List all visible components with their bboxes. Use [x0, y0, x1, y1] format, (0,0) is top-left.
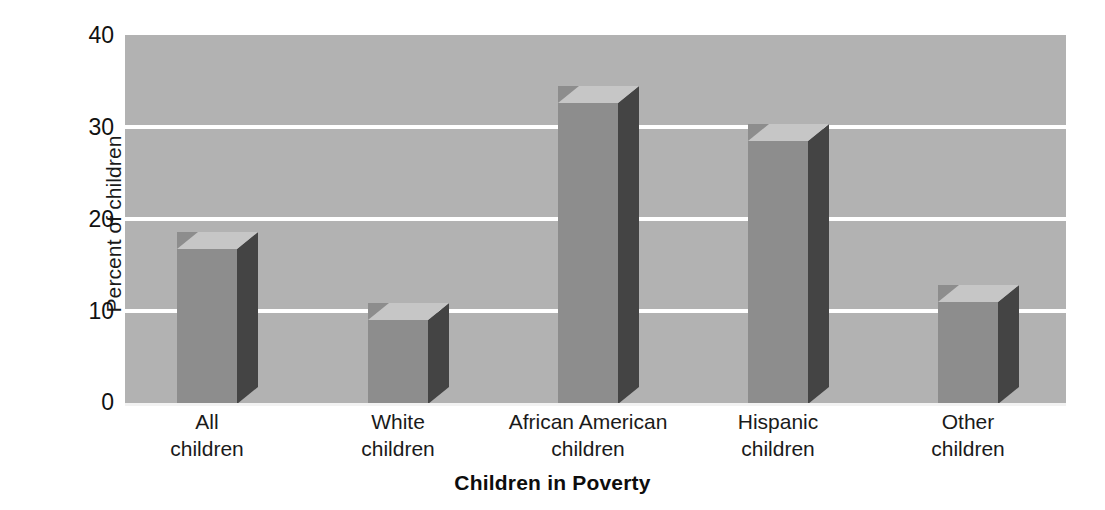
- x-axis-tick-labels: All children White children African Amer…: [125, 408, 1066, 466]
- x-tick-other-children: Other children: [853, 408, 1083, 462]
- bar-side-face: [998, 285, 1019, 404]
- chart-figure: Percent of children 40 30 20 10 0: [0, 0, 1105, 510]
- bar-front-face: [748, 124, 808, 404]
- y-tick-40: 40: [46, 24, 114, 47]
- x-tick-line-2: children: [853, 435, 1083, 462]
- bar-front-face: [558, 86, 618, 404]
- bar-side-face: [808, 124, 829, 404]
- bar-front-face: [938, 285, 998, 404]
- x-tick-line-1: Other: [853, 408, 1083, 435]
- bar-side-face: [428, 303, 449, 404]
- y-tick-20: 20: [46, 208, 114, 231]
- chart-title: Children in Poverty: [0, 471, 1105, 495]
- plot-area: [125, 35, 1066, 404]
- bar-front-face: [177, 232, 237, 404]
- y-tick-30: 30: [46, 116, 114, 139]
- y-tick-10: 10: [46, 300, 114, 323]
- bar-side-face: [618, 86, 639, 404]
- x-axis-baseline: [125, 403, 1066, 406]
- bar-side-face: [237, 232, 258, 404]
